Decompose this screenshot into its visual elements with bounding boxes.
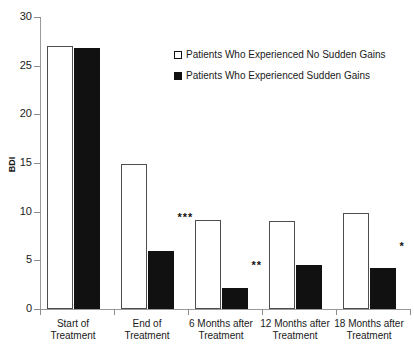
category-label-4: 18 Months afterTreatment xyxy=(332,318,406,342)
y-tick-label-15: 15 xyxy=(2,157,32,168)
bar-no-sudden-gains-4 xyxy=(343,213,369,309)
category-label-line1-1: End of xyxy=(110,318,184,330)
category-label-line2-0: Treatment xyxy=(36,330,110,342)
significance-marker-4: * xyxy=(400,241,405,252)
category-label-line1-4: 18 Months after xyxy=(332,318,406,330)
filled-square-icon xyxy=(174,72,182,80)
significance-marker-2: ** xyxy=(252,260,263,271)
category-label-line2-3: Treatment xyxy=(258,330,332,342)
bar-sudden-gains-4 xyxy=(370,268,396,309)
category-label-3: 12 Months afterTreatment xyxy=(258,318,332,342)
y-tick-label-wrap-20: 20 xyxy=(0,108,32,119)
x-tick-2 xyxy=(188,309,189,315)
y-tick-label-10: 10 xyxy=(2,206,32,217)
y-tick-label-wrap-25: 25 xyxy=(0,60,32,71)
category-label-line1-0: Start of xyxy=(36,318,110,330)
legend-label-no-sudden-gains: Patients Who Experienced No Sudden Gains xyxy=(186,50,386,60)
x-tick-3 xyxy=(262,309,263,315)
y-tick-label-wrap-15: 15 xyxy=(0,157,32,168)
category-label-line2-1: Treatment xyxy=(110,330,184,342)
y-tick-label-30: 30 xyxy=(2,11,32,22)
open-square-icon xyxy=(174,51,182,59)
bar-sudden-gains-1 xyxy=(148,251,174,309)
category-label-2: 6 Months afterTreatment xyxy=(184,318,258,342)
x-tick-0 xyxy=(40,309,41,315)
bar-sudden-gains-0 xyxy=(74,48,100,309)
legend-item-sudden-gains: Patients Who Experienced Sudden Gains xyxy=(174,71,386,81)
bar-sudden-gains-3 xyxy=(296,265,322,309)
bar-chart: BDI 051015202530 ****** Start ofTreatmen… xyxy=(0,0,414,348)
bar-no-sudden-gains-1 xyxy=(121,164,147,309)
y-tick-label-20: 20 xyxy=(2,108,32,119)
legend-label-sudden-gains: Patients Who Experienced Sudden Gains xyxy=(186,71,370,81)
category-label-line2-4: Treatment xyxy=(332,330,406,342)
x-axis-line xyxy=(40,309,410,310)
chart-legend: Patients Who Experienced No Sudden Gains… xyxy=(174,50,386,92)
y-tick-label-wrap-10: 10 xyxy=(0,206,32,217)
category-label-line2-2: Treatment xyxy=(184,330,258,342)
category-label-1: End ofTreatment xyxy=(110,318,184,342)
bar-group-0 xyxy=(40,17,114,309)
x-tick-1 xyxy=(114,309,115,315)
bar-no-sudden-gains-0 xyxy=(47,46,73,309)
x-tick-5 xyxy=(410,309,411,315)
x-tick-4 xyxy=(336,309,337,315)
y-tick-label-5: 5 xyxy=(2,254,32,265)
category-label-line1-2: 6 Months after xyxy=(184,318,258,330)
y-tick-label-wrap-30: 30 xyxy=(0,11,32,22)
y-tick-label-wrap-5: 5 xyxy=(0,254,32,265)
category-label-0: Start ofTreatment xyxy=(36,318,110,342)
category-label-line1-3: 12 Months after xyxy=(258,318,332,330)
y-tick-label-25: 25 xyxy=(2,60,32,71)
bar-no-sudden-gains-2 xyxy=(195,220,221,309)
y-tick-label-0: 0 xyxy=(2,303,32,314)
bar-sudden-gains-2 xyxy=(222,288,248,309)
legend-item-no-sudden-gains: Patients Who Experienced No Sudden Gains xyxy=(174,50,386,60)
bar-no-sudden-gains-3 xyxy=(269,221,295,309)
y-tick-label-wrap-0: 0 xyxy=(0,303,32,314)
